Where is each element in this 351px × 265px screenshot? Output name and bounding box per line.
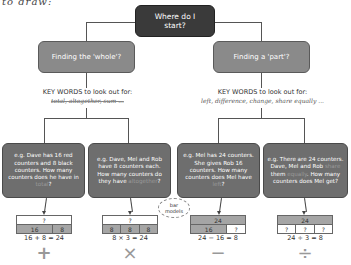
minus-icon: − <box>204 244 232 262</box>
example-addition: e.g. Dave has 16 red counters and 8 blac… <box>2 143 85 198</box>
arrow <box>44 198 47 212</box>
arrow <box>304 198 307 212</box>
keywords-title: KEY WORDS to look out for: <box>43 88 133 96</box>
connector <box>261 22 262 42</box>
keywords-list: left, difference, change, share equally … <box>180 97 345 104</box>
connector <box>44 118 45 143</box>
bar-model-subtraction: 24 16? <box>190 215 246 234</box>
connector <box>215 22 262 23</box>
branch-whole-label: Finding the 'whole'? <box>52 53 121 61</box>
bar-model-addition: ? 168 <box>16 215 72 234</box>
divide-icon: ÷ <box>291 244 319 262</box>
connector <box>128 118 129 143</box>
header-text: to draw: <box>2 0 52 7</box>
example-division: e.g. There are 24 counters. Dave, Mel an… <box>263 143 348 198</box>
connector <box>86 22 136 23</box>
connector <box>218 118 304 119</box>
connector <box>261 73 262 88</box>
equation-subtraction: 24 − 16 = 8 <box>184 234 252 242</box>
connector <box>304 118 305 143</box>
branch-part-label: Finding a 'part'? <box>234 53 290 61</box>
equation-division: 24 ÷ 3 = 8 <box>271 234 339 242</box>
keywords-whole: KEY WORDS to look out for: total, altoge… <box>10 88 165 104</box>
keywords-title: KEY WORDS to look out for: <box>218 88 308 96</box>
connector <box>218 118 219 143</box>
connector <box>261 108 262 118</box>
bar-models-cloud: bar models <box>158 198 190 218</box>
connector <box>86 22 87 42</box>
plus-icon: + <box>30 244 58 262</box>
branch-whole: Finding the 'whole'? <box>38 41 135 73</box>
bar-model-multiplication: ? 888 <box>102 215 158 234</box>
connector <box>86 73 87 88</box>
keywords-part: KEY WORDS to look out for: left, differe… <box>180 88 345 104</box>
arrow <box>130 198 133 212</box>
equation-multiplication: 8 × 3 = 24 <box>96 234 164 242</box>
arrow <box>219 198 222 212</box>
example-subtraction: e.g. Mel has 24 counters. She gives Rob … <box>177 143 260 198</box>
bar-model-division: 24 ??? <box>277 215 333 234</box>
root-label: Where do I start? <box>150 12 200 30</box>
equation-addition: 16 + 8 = 24 <box>10 234 78 242</box>
branch-part: Finding a 'part'? <box>213 41 310 73</box>
connector <box>44 118 128 119</box>
root-node: Where do I start? <box>135 5 215 37</box>
connector <box>86 108 87 118</box>
keywords-list: total, altogether, sum ... <box>10 97 165 104</box>
multiply-icon: × <box>116 244 144 262</box>
example-multiplication: e.g. Dave, Mel and Rob have 8 counters e… <box>88 143 171 198</box>
